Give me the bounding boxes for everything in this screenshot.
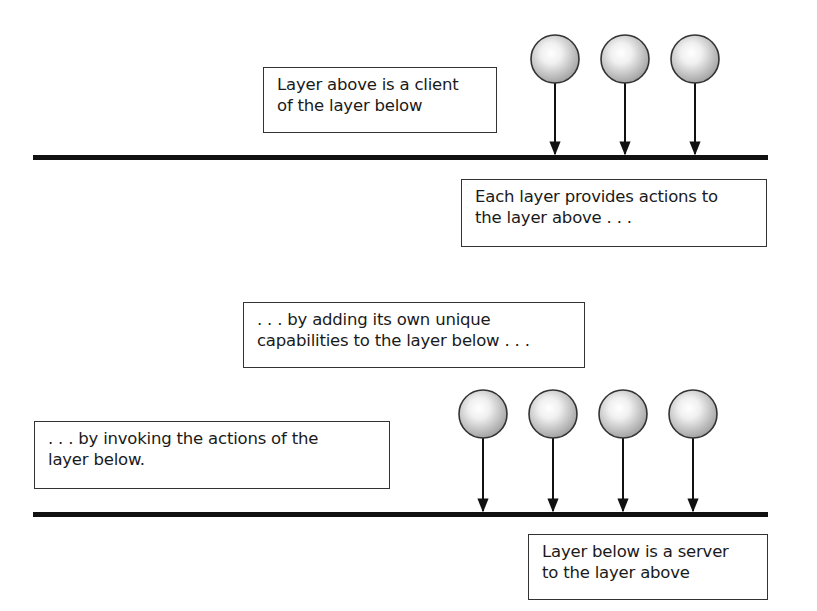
server-note-line2: to the layer above [542,562,767,583]
sphere-icon [669,390,717,438]
provides-note-line2: the layer above . . . [475,207,766,228]
sphere-icon [531,35,579,83]
top-client-node-3 [671,35,719,154]
client-note-box: Layer above is a client of the layer bel… [263,67,497,133]
client-note-line2: of the layer below [277,95,496,116]
bottom-client-node-3 [599,390,647,511]
bottom-client-node-4 [669,390,717,511]
adding-note-line1: . . . by adding its own unique [257,309,584,330]
server-note-box: Layer below is a server to the layer abo… [528,534,768,600]
provides-note-line1: Each layer provides actions to [475,186,766,207]
sphere-icon [599,390,647,438]
invoking-note-box: . . . by invoking the actions of the lay… [34,421,390,489]
top-layer-line [33,155,768,160]
bottom-client-nodes [459,390,717,511]
sphere-icon [601,35,649,83]
invoking-note-line2: layer below. [48,449,389,470]
provides-note-box: Each layer provides actions to the layer… [461,179,767,247]
top-client-node-1 [531,35,579,154]
adding-note-box: . . . by adding its own unique capabilit… [243,302,585,368]
server-note-line1: Layer below is a server [542,541,767,562]
sphere-icon [529,390,577,438]
sphere-icon [671,35,719,83]
invoking-note-line1: . . . by invoking the actions of the [48,428,389,449]
client-note-line1: Layer above is a client [277,74,496,95]
bottom-layer-line [33,512,768,517]
adding-note-line2: capabilities to the layer below . . . [257,330,584,351]
bottom-client-node-1 [459,390,507,511]
sphere-icon [459,390,507,438]
bottom-client-node-2 [529,390,577,511]
top-client-node-2 [601,35,649,154]
top-client-nodes [531,35,719,154]
